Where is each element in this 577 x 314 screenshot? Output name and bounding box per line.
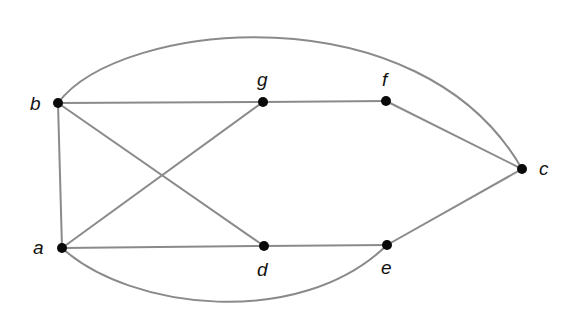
edge-e-c <box>387 169 522 245</box>
node-f <box>381 96 391 106</box>
nodes <box>53 96 527 253</box>
edge-a-d <box>62 246 264 248</box>
label-b: b <box>30 93 41 114</box>
edge-b-g <box>58 102 263 103</box>
graph-diagram: a b c d e f g <box>0 0 577 314</box>
node-c <box>517 164 527 174</box>
label-g: g <box>257 69 268 90</box>
label-e: e <box>381 257 392 278</box>
edge-f-c <box>386 101 522 169</box>
edge-d-e <box>264 245 387 246</box>
node-b <box>53 98 63 108</box>
node-a <box>57 243 67 253</box>
edge-a-e-arc <box>62 245 387 302</box>
edge-a-g <box>62 102 263 248</box>
edge-g-f <box>263 101 386 102</box>
edge-b-a <box>58 103 62 248</box>
node-e <box>382 240 392 250</box>
label-f: f <box>382 69 389 90</box>
label-a: a <box>33 237 44 258</box>
label-c: c <box>539 158 549 179</box>
node-d <box>259 241 269 251</box>
edges <box>58 37 522 302</box>
label-d: d <box>257 259 269 280</box>
node-g <box>258 97 268 107</box>
